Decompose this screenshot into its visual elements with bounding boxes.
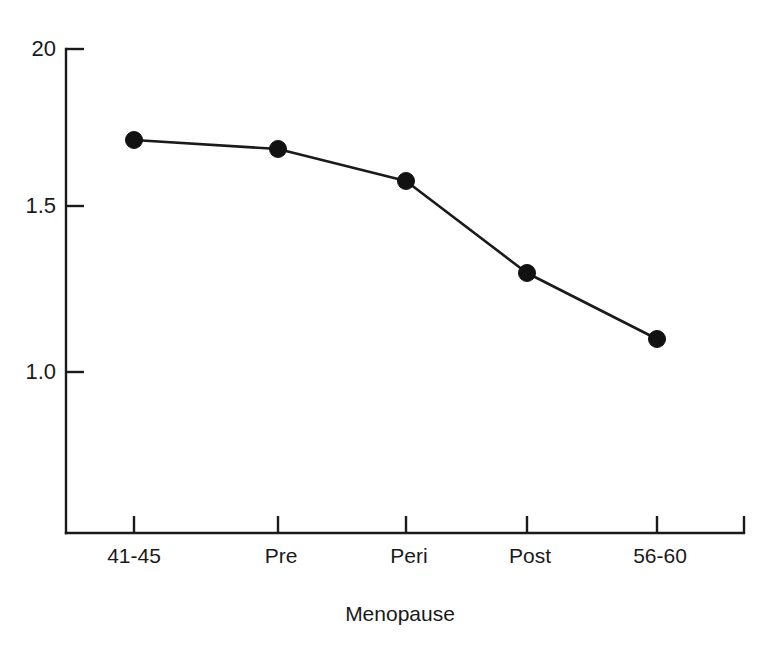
data-point-pre <box>270 141 287 158</box>
x-tick-label-56-60: 56-60 <box>633 545 687 566</box>
x-tick-label-peri: Peri <box>390 545 427 566</box>
data-point-56-60 <box>649 331 666 348</box>
data-point-41-45 <box>126 132 143 149</box>
x-axis-title: Menopause <box>345 603 455 624</box>
x-tick-label-post: Post <box>509 545 551 566</box>
data-point-peri <box>398 173 415 190</box>
x-tick-label-41-45: 41-45 <box>107 545 161 566</box>
y-tick-label-bottom: 1.0 <box>25 361 56 383</box>
chart-figure: 20 1.5 1.0 41-45 Pre Peri Post 56-60 Men… <box>0 0 779 660</box>
y-tick-label-mid: 1.5 <box>25 195 56 217</box>
x-tick-label-pre: Pre <box>265 545 298 566</box>
y-tick-label-top: 20 <box>32 38 56 60</box>
data-series-line <box>134 140 657 339</box>
data-point-post <box>519 265 536 282</box>
